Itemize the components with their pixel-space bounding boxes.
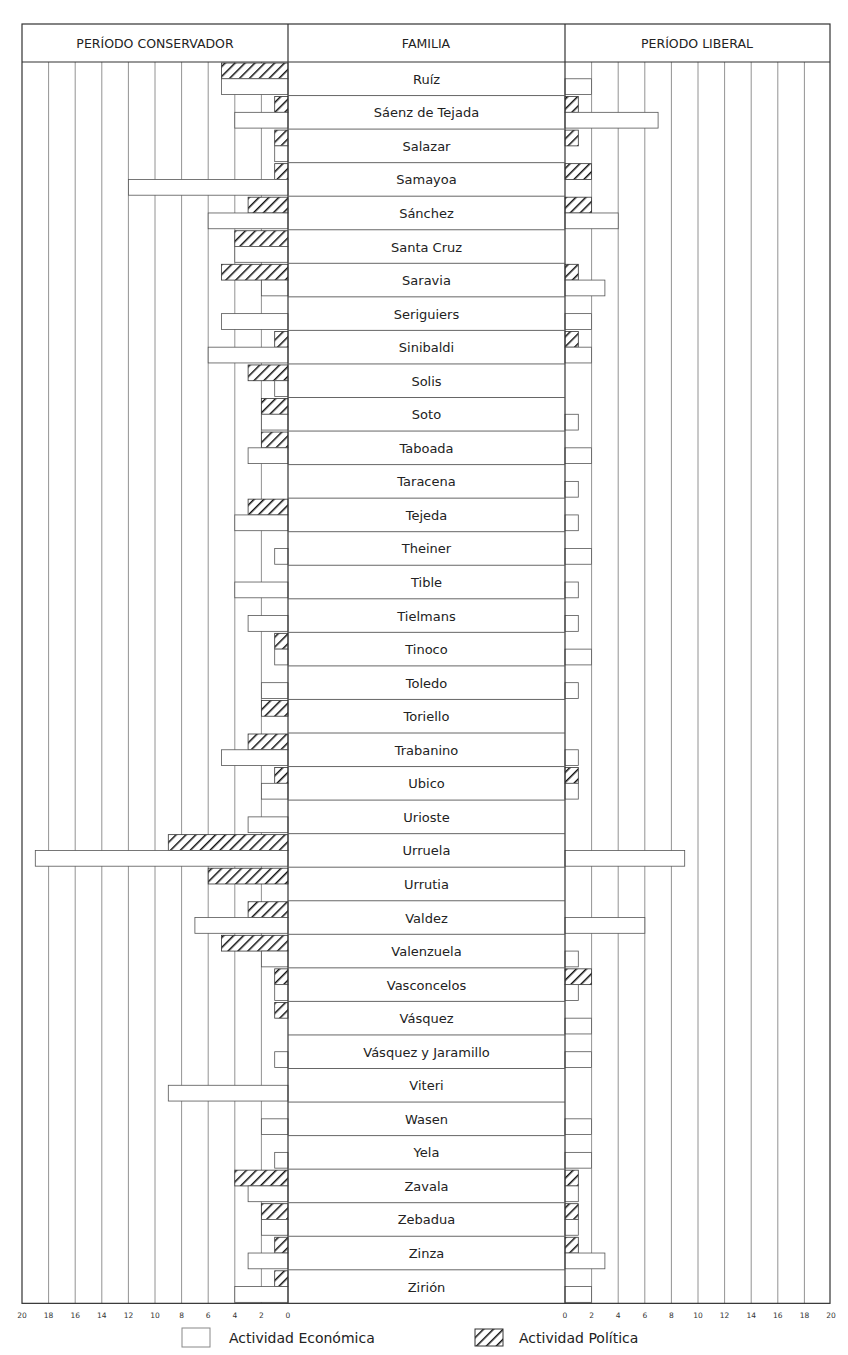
bar-conservador-economica xyxy=(235,112,288,128)
family-name: Zebadua xyxy=(398,1212,456,1227)
bar-conservador-economica xyxy=(235,247,288,263)
bar-liberal-economica xyxy=(565,1287,592,1303)
bar-liberal-economica xyxy=(565,1052,592,1068)
bar-conservador-economica xyxy=(35,850,288,866)
bar-conservador-economica xyxy=(248,616,288,632)
family-name: Zirión xyxy=(408,1280,446,1295)
family-activity-chart: PERÍODO CONSERVADOR FAMILIA PERÍODO LIBE… xyxy=(0,0,848,1355)
bar-conservador-politica xyxy=(261,700,288,716)
family-name: Toriello xyxy=(403,709,450,724)
tick-label-right: 6 xyxy=(642,1311,647,1320)
header-right-label: PERÍODO LIBERAL xyxy=(641,36,753,51)
legend-economic-label: Actividad Económica xyxy=(229,1330,375,1346)
family-name: Seriguiers xyxy=(394,307,460,322)
bar-liberal-politica xyxy=(565,264,578,280)
bar-liberal-economica xyxy=(565,448,592,464)
bar-conservador-politica xyxy=(275,969,288,985)
bar-liberal-economica xyxy=(565,750,578,766)
family-name: Samayoa xyxy=(396,172,456,187)
bar-liberal-economica xyxy=(565,985,578,1001)
bar-liberal-politica xyxy=(565,969,592,985)
family-name: Zinza xyxy=(409,1246,445,1261)
family-name: Santa Cruz xyxy=(391,240,462,255)
bar-conservador-economica xyxy=(275,1052,288,1068)
bar-liberal-economica xyxy=(565,1152,592,1168)
tick-label-right: 10 xyxy=(693,1311,703,1320)
tick-label-left: 14 xyxy=(97,1311,107,1320)
bar-conservador-economica xyxy=(222,750,289,766)
tick-label-right: 16 xyxy=(773,1311,783,1320)
bar-liberal-economica xyxy=(565,1018,592,1034)
legend-economic-swatch xyxy=(182,1328,210,1347)
family-name: Tinoco xyxy=(404,642,447,657)
bar-conservador-economica xyxy=(222,314,289,330)
tick-label-right: 20 xyxy=(826,1311,836,1320)
bar-liberal-economica xyxy=(565,783,578,799)
family-name: Viteri xyxy=(409,1078,443,1093)
bar-conservador-politica xyxy=(275,164,288,180)
family-name: Valdez xyxy=(405,911,448,926)
family-name: Sinibaldi xyxy=(399,340,454,355)
bar-conservador-politica xyxy=(275,1271,288,1287)
bar-conservador-economica xyxy=(261,783,288,799)
bars xyxy=(35,63,684,1302)
bar-conservador-economica xyxy=(208,347,288,363)
tick-label-left: 10 xyxy=(150,1311,160,1320)
bar-conservador-politica xyxy=(222,264,289,280)
bar-conservador-politica xyxy=(261,399,288,415)
tick-label-right: 14 xyxy=(746,1311,756,1320)
bar-conservador-economica xyxy=(261,951,288,967)
bar-conservador-economica xyxy=(275,381,288,397)
family-name: Zavala xyxy=(404,1179,448,1194)
header-center-label: FAMILIA xyxy=(402,36,451,51)
family-name: Urrutia xyxy=(404,877,449,892)
tick-label-left: 0 xyxy=(286,1311,291,1320)
tick-label-left: 20 xyxy=(17,1311,27,1320)
bar-liberal-economica xyxy=(565,1253,605,1269)
family-name: Ubico xyxy=(408,776,445,791)
tick-label-left: 12 xyxy=(124,1311,134,1320)
family-name: Urioste xyxy=(403,810,449,825)
bar-conservador-politica xyxy=(261,432,288,448)
legend-political-swatch xyxy=(475,1329,503,1346)
bar-liberal-economica xyxy=(565,314,592,330)
bar-conservador-politica xyxy=(248,365,288,381)
tick-label-left: 4 xyxy=(232,1311,237,1320)
tick-label-right: 4 xyxy=(616,1311,621,1320)
family-name: Solis xyxy=(411,374,441,389)
bar-liberal-economica xyxy=(565,1119,592,1135)
family-name: Tejeda xyxy=(405,508,448,523)
bar-liberal-economica xyxy=(565,951,578,967)
tick-label-right: 0 xyxy=(563,1311,568,1320)
bar-conservador-economica xyxy=(261,1119,288,1135)
bar-liberal-economica xyxy=(565,683,578,699)
tick-label-left: 16 xyxy=(70,1311,80,1320)
bar-liberal-politica xyxy=(565,197,592,213)
family-name: Sánchez xyxy=(399,206,454,221)
bar-liberal-economica xyxy=(565,481,578,497)
bar-liberal-economica xyxy=(565,280,605,296)
family-name: Vásquez y Jaramillo xyxy=(363,1045,490,1060)
bar-liberal-economica xyxy=(565,79,592,95)
family-name: Sáenz de Tejada xyxy=(374,105,479,120)
bar-conservador-politica xyxy=(275,1237,288,1253)
bar-liberal-politica xyxy=(565,164,592,180)
bar-conservador-economica xyxy=(222,79,289,95)
bar-conservador-economica xyxy=(261,414,288,430)
bar-conservador-politica xyxy=(235,231,288,247)
family-name: Wasen xyxy=(405,1112,448,1127)
axis-ticks: 2018161412108642002468101214161820 xyxy=(17,1311,836,1320)
family-name: Tible xyxy=(410,575,442,590)
tick-label-left: 8 xyxy=(179,1311,184,1320)
bar-conservador-politica xyxy=(275,130,288,146)
bar-conservador-economica xyxy=(235,582,288,598)
bar-conservador-politica xyxy=(248,499,288,515)
bar-conservador-economica xyxy=(195,918,288,934)
bar-conservador-economica xyxy=(275,146,288,162)
tick-label-right: 2 xyxy=(589,1311,594,1320)
bar-liberal-economica xyxy=(565,515,578,531)
family-name: Soto xyxy=(412,407,441,422)
bar-liberal-economica xyxy=(565,414,578,430)
tick-label-right: 8 xyxy=(669,1311,674,1320)
legend-political-label: Actividad Política xyxy=(519,1330,638,1346)
